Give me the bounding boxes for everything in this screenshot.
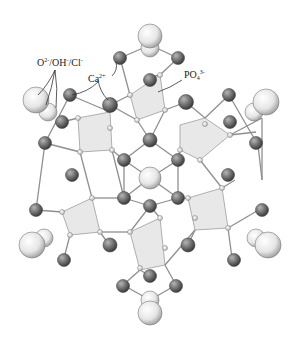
anion-atom xyxy=(138,24,162,48)
label-calcium: Ca2+ xyxy=(88,74,106,84)
anion-atom xyxy=(253,89,279,115)
label-calcium-charge: 2+ xyxy=(99,73,105,79)
label-phosphate: PO43- xyxy=(184,70,205,80)
anion-atom xyxy=(255,232,281,258)
anion-atom xyxy=(19,232,45,258)
anion-atom xyxy=(138,301,162,325)
label-calcium-symbol: Ca xyxy=(88,73,99,84)
label-phosphate-subscript: 4 xyxy=(197,75,200,81)
label-phosphate-symbol: PO xyxy=(184,69,197,80)
anion-atom-center xyxy=(139,167,161,189)
label-phosphate-charge: 3- xyxy=(200,69,205,75)
crystal-structure-svg xyxy=(0,0,302,351)
label-anion-o-charge: 2- xyxy=(44,57,49,63)
label-anion-oh: /OH xyxy=(49,57,66,68)
label-anion-cl: /Cl xyxy=(68,57,80,68)
apatite-structure-diagram: O2-/OH-/Cl- Ca2+ PO43- xyxy=(0,0,302,351)
label-anion-cl-charge: - xyxy=(81,57,83,63)
label-anion: O2-/OH-/Cl- xyxy=(37,58,83,68)
anion-atom xyxy=(23,87,49,113)
